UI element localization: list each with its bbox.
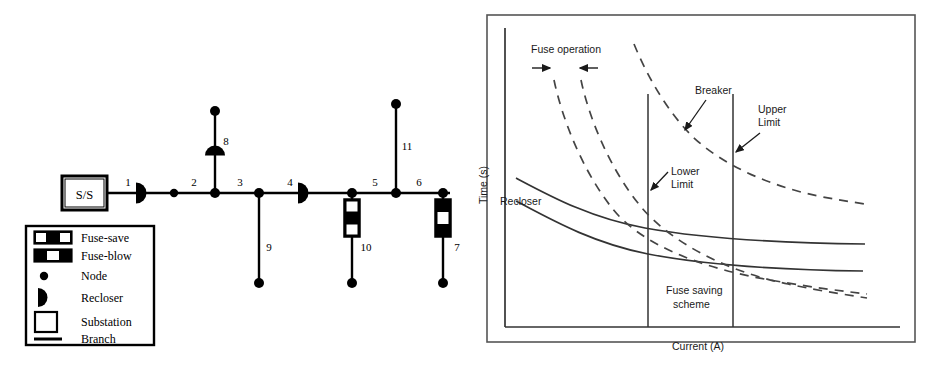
fuse-save-icon <box>34 231 72 244</box>
branch-label-4: 4 <box>287 176 293 188</box>
legend-label-node: Node <box>81 269 107 283</box>
node-icon <box>40 272 48 280</box>
legend: Fuse-save Fuse-blow Node <box>26 226 154 346</box>
legend-item-fuse-save: Fuse-save <box>34 231 129 245</box>
recloser-symbol-branch-4 <box>298 183 309 204</box>
branch-label-5: 5 <box>372 176 378 188</box>
branch-label-11: 11 <box>402 140 413 152</box>
coordination-chart-panel: Time (s) Current (A) Fuse operation Brea… <box>470 0 939 379</box>
legend-label-fuse-save: Fuse-save <box>81 231 129 245</box>
branch-label-10: 10 <box>361 241 373 253</box>
node-dot <box>170 189 178 197</box>
fuse-operation-label: Fuse operation <box>531 43 601 55</box>
legend-label-branch: Branch <box>81 332 116 346</box>
fuse-blow-icon <box>34 249 72 262</box>
substation-icon <box>35 312 57 332</box>
node-dot <box>438 278 448 288</box>
branch-label-9: 9 <box>266 241 272 253</box>
lower-limit-label-line1: Lower <box>671 165 700 177</box>
upper-limit-label-line1: Upper <box>758 103 787 115</box>
y-axis-label: Time (s) <box>477 166 489 204</box>
fuse-saving-scheme-line2: scheme <box>673 298 710 310</box>
figure-root: S/S 1 2 8 3 <box>0 0 939 379</box>
network-diagram: S/S 1 2 8 3 <box>0 0 470 379</box>
fuse-saving-scheme-line1: Fuse saving <box>666 284 723 296</box>
legend-label-fuse-blow: Fuse-blow <box>81 249 132 263</box>
branch-label-1: 1 <box>125 176 131 188</box>
recloser-symbol-branch-8 <box>205 146 225 156</box>
substation-symbol: S/S <box>62 176 107 210</box>
fuse-blow-symbol-branch-7 <box>435 199 451 237</box>
lower-limit-label-line2: Limit <box>671 178 693 190</box>
branch-label-7: 7 <box>454 241 460 253</box>
node-dot <box>254 278 264 288</box>
network-diagram-panel: S/S 1 2 8 3 <box>0 0 470 379</box>
branch-label-6: 6 <box>416 176 422 188</box>
recloser-label: Recloser <box>500 195 542 207</box>
fuse-save-symbol-branch-10 <box>344 199 360 237</box>
upper-limit-label-line2: Limit <box>758 116 780 128</box>
node-dot <box>210 106 220 116</box>
coordination-chart: Time (s) Current (A) Fuse operation Brea… <box>470 0 939 379</box>
breaker-label: Breaker <box>695 84 732 96</box>
substation-label: S/S <box>76 188 93 202</box>
legend-label-substation: Substation <box>81 315 132 329</box>
recloser-symbol-branch-1 <box>136 183 147 204</box>
branch-label-2: 2 <box>191 176 197 188</box>
legend-label-recloser: Recloser <box>81 291 123 305</box>
branch-label-3: 3 <box>237 176 243 188</box>
legend-item-fuse-blow: Fuse-blow <box>34 249 132 263</box>
node-dot <box>391 99 401 109</box>
node-dot <box>347 278 357 288</box>
x-axis-label: Current (A) <box>672 340 724 352</box>
branch-label-8: 8 <box>223 135 229 147</box>
